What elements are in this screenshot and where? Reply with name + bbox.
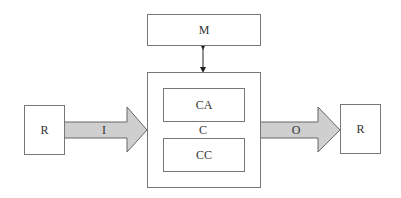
memory-box: M	[147, 14, 261, 46]
cc-label: CC	[196, 148, 212, 163]
memory-label: M	[199, 23, 210, 38]
left-r-label: R	[40, 123, 48, 138]
input-arrow-label: I	[102, 123, 106, 138]
cc-box: CC	[163, 138, 245, 172]
right-r-label: R	[356, 122, 364, 137]
output-arrow-label: O	[292, 123, 301, 138]
left-r-box: R	[24, 105, 65, 155]
right-r-box: R	[340, 104, 381, 154]
ca-box: CA	[163, 88, 245, 122]
ca-label: CA	[196, 98, 213, 113]
controller-label: C	[199, 123, 207, 138]
